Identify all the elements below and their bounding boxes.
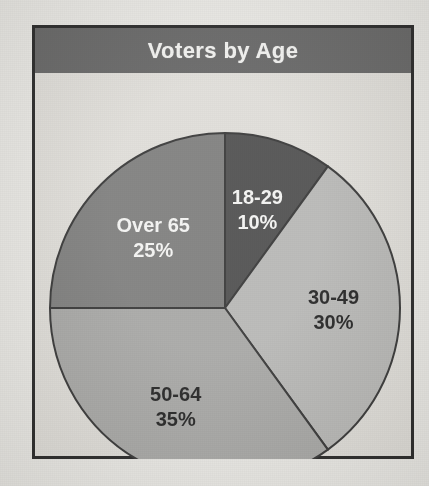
chart-figure-frame: Voters by Age 18-2910%30-4930%50-6435%Ov… xyxy=(32,25,414,459)
pie-chart: 18-2910%30-4930%50-6435%Over 6525% xyxy=(32,70,414,459)
pie-chart-plot-area: 18-2910%30-4930%50-6435%Over 6525% xyxy=(35,73,411,456)
chart-title-banner: Voters by Age xyxy=(35,28,411,73)
page-title: Voters by Age xyxy=(148,38,299,64)
